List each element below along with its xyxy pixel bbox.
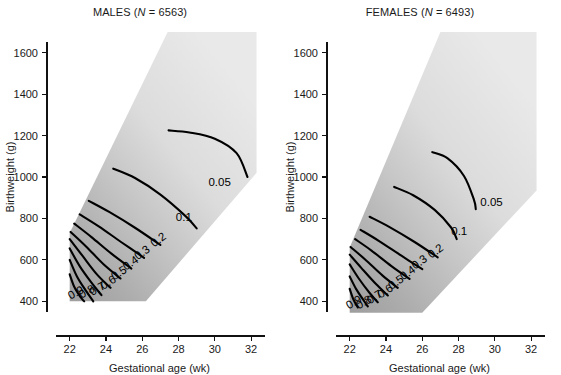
- plot-males: 4006008001000120014001600222426283032Ges…: [0, 0, 280, 375]
- y-tick-label: 1000: [14, 171, 38, 183]
- y-tick-label: 1600: [14, 47, 38, 59]
- x-tick-label: 24: [380, 343, 392, 355]
- x-tick-label: 32: [525, 343, 537, 355]
- x-tick-label: 32: [245, 343, 257, 355]
- x-tick-label: 22: [344, 343, 356, 355]
- y-tick-label: 600: [20, 254, 38, 266]
- contour-label-0.05: 0.05: [208, 176, 230, 188]
- x-tick-label: 30: [489, 343, 501, 355]
- y-tick-label: 1200: [14, 130, 38, 142]
- plot-females: 4006008001000120014001600222426283032Ges…: [280, 0, 560, 375]
- y-tick-label: 1200: [294, 130, 318, 142]
- y-tick-label: 800: [300, 212, 318, 224]
- y-axis-title: Birthweight (g): [284, 142, 296, 213]
- x-tick-label: 30: [209, 343, 221, 355]
- y-tick-label: 600: [300, 254, 318, 266]
- y-tick-label: 400: [20, 295, 38, 307]
- y-axis-title: Birthweight (g): [4, 142, 16, 213]
- x-tick-label: 24: [100, 343, 112, 355]
- figure-container: MALES (N = 6563) 40060080010001200140016…: [0, 0, 561, 375]
- panel-males: MALES (N = 6563) 40060080010001200140016…: [0, 0, 280, 375]
- x-tick-label: 26: [416, 343, 428, 355]
- y-tick-label: 1400: [294, 88, 318, 100]
- contour-label-0.1: 0.1: [451, 225, 467, 237]
- panel-females: FEMALES (N = 6493) 400600800100012001400…: [280, 0, 560, 375]
- y-tick-label: 1400: [14, 88, 38, 100]
- contour-label-0.05: 0.05: [480, 196, 502, 208]
- x-tick-label: 28: [172, 343, 184, 355]
- x-tick-label: 28: [452, 343, 464, 355]
- contour-label-0.1: 0.1: [176, 211, 192, 223]
- x-axis-title: Gestational age (wk): [389, 362, 490, 374]
- y-tick-label: 800: [20, 212, 38, 224]
- x-tick-label: 26: [136, 343, 148, 355]
- y-tick-label: 1000: [294, 171, 318, 183]
- mortality-band: [70, 32, 257, 301]
- x-axis-title: Gestational age (wk): [109, 362, 210, 374]
- y-tick-label: 1600: [294, 47, 318, 59]
- x-tick-label: 22: [64, 343, 76, 355]
- y-tick-label: 400: [300, 295, 318, 307]
